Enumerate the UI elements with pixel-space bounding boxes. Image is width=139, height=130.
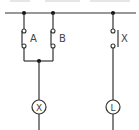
- lamp-l-label: L: [110, 103, 115, 113]
- contact-icon: [111, 29, 115, 33]
- contact-icon: [111, 44, 115, 48]
- contact-icon: [51, 44, 55, 48]
- switch-x: X: [111, 13, 128, 100]
- ladder-diagram: A B X X L: [0, 0, 139, 130]
- switch-b-label: B: [59, 33, 66, 44]
- contact-icon: [22, 44, 26, 48]
- relay-coil-x: X: [32, 100, 46, 130]
- lamp-l: L: [106, 100, 120, 130]
- switch-a: A: [22, 13, 37, 61]
- switch-b: B: [51, 13, 66, 61]
- switch-a-label: A: [30, 33, 37, 44]
- switch-x-label: X: [121, 33, 128, 44]
- coil-x-label: X: [36, 103, 42, 113]
